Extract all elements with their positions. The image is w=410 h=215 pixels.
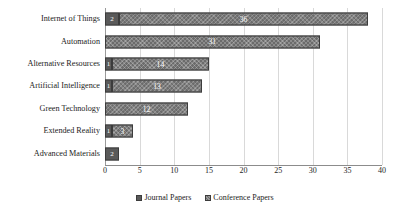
- plot-area: Internet of Things236Automation31Alterna…: [105, 8, 382, 165]
- bar-segment-journal[interactable]: 1: [105, 80, 112, 93]
- bar-row: Automation31: [105, 30, 382, 52]
- stacked-bar[interactable]: 114: [105, 58, 209, 71]
- bar-segment-conference[interactable]: 3: [112, 125, 133, 138]
- bar-rows: Internet of Things236Automation31Alterna…: [105, 8, 382, 165]
- bar-row: Green Technology12: [105, 98, 382, 120]
- x-tick-label: 15: [205, 167, 213, 175]
- bar-segment-value: 36: [240, 15, 248, 23]
- category-label: Green Technology: [40, 105, 100, 113]
- x-tick-label: 40: [378, 167, 386, 175]
- x-axis-tick-labels: 0510152025303540: [105, 167, 382, 179]
- bar-segment-value: 2: [110, 16, 114, 23]
- stacked-bar-chart: Internet of Things236Automation31Alterna…: [0, 0, 410, 215]
- bar-segment-conference[interactable]: 36: [119, 13, 368, 26]
- legend-swatch-conference: [205, 195, 211, 201]
- bar-segment-value: 12: [143, 105, 151, 113]
- bar-row: Artificial Intelligence113: [105, 75, 382, 97]
- x-tick-label: 5: [138, 167, 142, 175]
- stacked-bar[interactable]: 2: [105, 147, 119, 160]
- bar-segment-value: 2: [110, 150, 114, 157]
- chart-legend: Journal PapersConference Papers: [0, 194, 410, 202]
- bar-segment-journal[interactable]: 1: [105, 125, 112, 138]
- bar-segment-conference[interactable]: 13: [112, 80, 202, 93]
- category-label: Alternative Resources: [27, 60, 100, 68]
- bar-segment-journal[interactable]: 2: [105, 13, 119, 26]
- category-label: Extended Reality: [43, 127, 100, 135]
- stacked-bar[interactable]: 236: [105, 13, 368, 26]
- bar-segment-journal[interactable]: 1: [105, 58, 112, 71]
- x-tick-label: 25: [274, 167, 282, 175]
- bar-row: Extended Reality13: [105, 120, 382, 142]
- category-label: Internet of Things: [41, 15, 100, 23]
- legend-swatch-journal: [136, 195, 142, 201]
- x-tick-label: 35: [343, 167, 351, 175]
- bar-segment-value: 3: [120, 128, 124, 136]
- bar-segment-value: 1: [107, 128, 111, 135]
- legend-item[interactable]: Journal Papers: [136, 194, 191, 202]
- x-tick-label: 0: [103, 167, 107, 175]
- stacked-bar[interactable]: 31: [105, 35, 320, 48]
- category-label: Advanced Materials: [34, 150, 100, 158]
- bar-row: Alternative Resources114: [105, 53, 382, 75]
- legend-item[interactable]: Conference Papers: [205, 194, 273, 202]
- bar-segment-value: 1: [107, 83, 111, 90]
- legend-label: Conference Papers: [213, 194, 273, 202]
- bar-segment-conference[interactable]: 12: [105, 102, 188, 115]
- bar-segment-journal[interactable]: 2: [105, 147, 119, 160]
- stacked-bar[interactable]: 13: [105, 125, 133, 138]
- bar-segment-value: 31: [209, 38, 217, 46]
- bar-segment-value: 14: [157, 60, 165, 68]
- stacked-bar[interactable]: 12: [105, 102, 188, 115]
- bar-row: Advanced Materials2: [105, 143, 382, 165]
- bar-segment-value: 13: [153, 83, 161, 91]
- bar-row: Internet of Things236: [105, 8, 382, 30]
- gridline-40: [382, 8, 383, 165]
- bar-segment-value: 1: [107, 61, 111, 68]
- x-tick-label: 20: [240, 167, 248, 175]
- category-label: Automation: [61, 38, 100, 46]
- stacked-bar[interactable]: 113: [105, 80, 202, 93]
- x-tick-label: 30: [309, 167, 317, 175]
- bar-segment-conference[interactable]: 31: [105, 35, 320, 48]
- bar-segment-conference[interactable]: 14: [112, 58, 209, 71]
- legend-label: Journal Papers: [144, 194, 191, 202]
- x-tick-label: 10: [170, 167, 178, 175]
- category-label: Artificial Intelligence: [29, 82, 100, 90]
